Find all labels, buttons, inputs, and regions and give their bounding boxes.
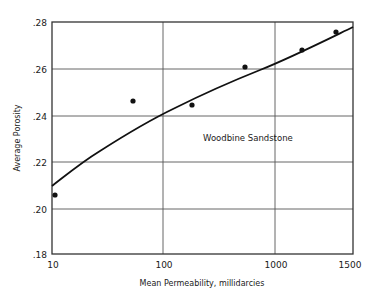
x-tick: 1000 xyxy=(265,260,288,270)
data-point xyxy=(130,98,135,103)
series-annotation: Woodbine Sandstone xyxy=(203,133,293,143)
y-axis-label: Average Porosity xyxy=(13,104,22,171)
y-tick: .20 xyxy=(33,205,48,215)
x-tick: 1500 xyxy=(339,260,362,270)
data-point xyxy=(242,64,247,69)
y-tick: .24 xyxy=(33,112,48,122)
y-tick: .26 xyxy=(33,65,48,75)
y-tick: .22 xyxy=(33,158,47,168)
data-point xyxy=(333,29,338,34)
data-point xyxy=(189,102,194,107)
x-tick-labels: 10 100 1000 1500 xyxy=(47,260,361,270)
x-tick: 10 xyxy=(47,260,59,270)
x-tick: 100 xyxy=(155,260,172,270)
x-axis-label: Mean Permeability, millidarcies xyxy=(140,279,265,288)
data-point xyxy=(299,47,304,52)
y-tick-labels: .28 .26 .24 .22 .20 .18 xyxy=(33,18,48,260)
y-tick: .28 xyxy=(33,18,48,28)
data-point xyxy=(52,192,57,197)
porosity-permeability-chart: .28 .26 .24 .22 .20 .18 10 100 1000 1500… xyxy=(0,0,376,294)
y-tick: .18 xyxy=(33,250,48,260)
